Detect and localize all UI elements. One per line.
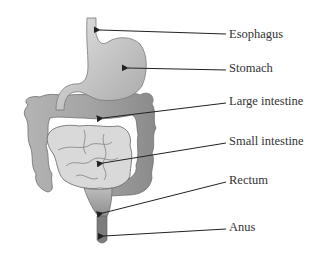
- label-stomach: Stomach: [229, 61, 273, 75]
- label-rectum: Rectum: [229, 173, 268, 187]
- rectum-shape: [84, 188, 112, 218]
- label-large-intestine: Large intestine: [229, 94, 303, 108]
- anus-shape: [97, 216, 107, 243]
- small-intestine-shape: [47, 125, 132, 188]
- arrow-esophagus: [100, 30, 226, 34]
- arrow-anus: [104, 229, 226, 236]
- label-anus: Anus: [229, 220, 255, 234]
- label-esophagus: Esophagus: [229, 27, 283, 41]
- label-small-intestine: Small intestine: [229, 134, 304, 148]
